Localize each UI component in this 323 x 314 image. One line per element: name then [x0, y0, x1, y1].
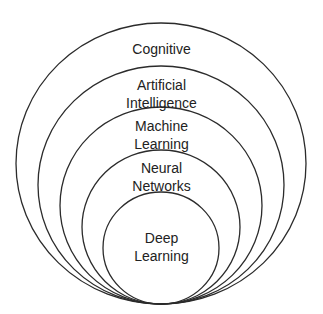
label-deep-learning: Deep Learning: [0, 229, 323, 265]
label-line: Deep: [0, 229, 323, 247]
label-line: Learning: [0, 247, 323, 265]
label-machine-learning: Machine Learning: [0, 117, 323, 153]
label-line: Cognitive: [0, 40, 323, 58]
label-line: Neural: [0, 159, 323, 177]
nested-ai-diagram: Cognitive Artificial Intelligence Machin…: [0, 0, 323, 314]
label-line: Intelligence: [0, 94, 323, 112]
label-line: Machine: [0, 117, 323, 135]
label-cognitive: Cognitive: [0, 40, 323, 58]
label-line: Artificial: [0, 76, 323, 94]
label-artificial-intelligence: Artificial Intelligence: [0, 76, 323, 112]
label-line: Networks: [0, 177, 323, 195]
label-line: Learning: [0, 135, 323, 153]
label-neural-networks: Neural Networks: [0, 159, 323, 195]
